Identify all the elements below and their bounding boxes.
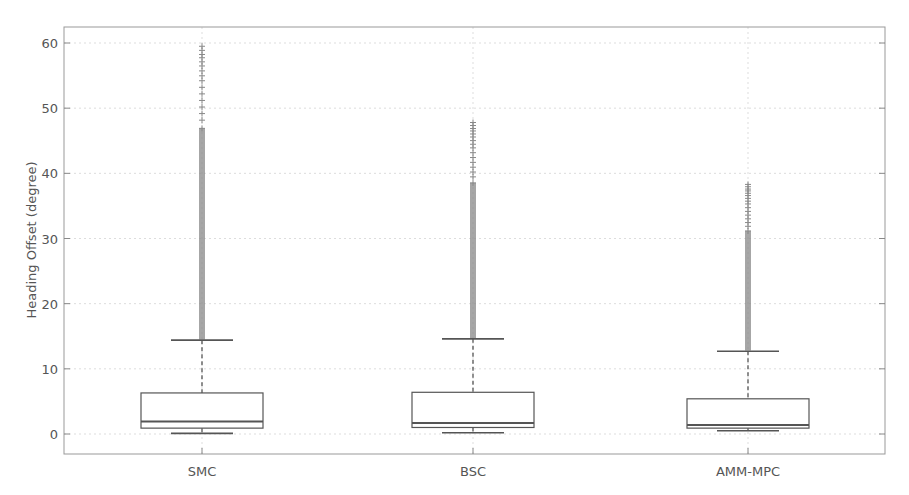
y-tick-label: 20 xyxy=(41,297,58,312)
outliers xyxy=(470,120,476,339)
iqr-box xyxy=(141,393,263,428)
outliers xyxy=(745,181,751,350)
y-tick-label: 40 xyxy=(41,166,58,181)
y-tick-label: 0 xyxy=(50,427,58,442)
x-tick-label: AMM-MPC xyxy=(716,464,780,479)
x-tick-label: SMC xyxy=(188,464,217,479)
box-plot-chart: 0102030405060 SMCBSCAMM-MPC Heading Offs… xyxy=(0,0,909,495)
box-bsc xyxy=(412,120,534,433)
y-tick-label: 10 xyxy=(41,362,58,377)
y-tick-label: 60 xyxy=(41,36,58,51)
x-axis: SMCBSCAMM-MPC xyxy=(188,448,780,479)
boxes xyxy=(141,43,809,433)
outliers xyxy=(199,43,205,339)
y-tick-label: 50 xyxy=(41,101,58,116)
y-axis: 0102030405060 xyxy=(41,36,885,442)
iqr-box xyxy=(687,399,809,428)
box-amm-mpc xyxy=(687,181,809,430)
x-tick-label: BSC xyxy=(460,464,486,479)
y-tick-label: 30 xyxy=(41,232,58,247)
y-axis-title: Heading Offset (degree) xyxy=(24,161,39,318)
